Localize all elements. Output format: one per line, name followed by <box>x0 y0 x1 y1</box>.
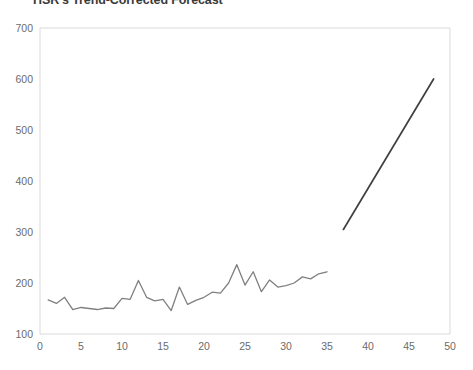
y-tick-label-500: 500 <box>15 124 33 136</box>
x-tick-label-35: 35 <box>321 340 333 352</box>
y-tick-label-200: 200 <box>15 277 33 289</box>
x-tick-label-30: 30 <box>280 340 292 352</box>
chart-container: HSR's Trend-Corrected Forecast 100200300… <box>0 0 473 370</box>
x-tick-label-15: 15 <box>157 340 169 352</box>
y-tick-label-700: 700 <box>15 22 33 34</box>
y-tick-label-100: 100 <box>15 328 33 340</box>
y-tick-label-300: 300 <box>15 226 33 238</box>
x-tick-label-5: 5 <box>78 340 84 352</box>
x-tick-label-25: 25 <box>239 340 251 352</box>
y-tick-label-600: 600 <box>15 73 33 85</box>
x-tick-label-20: 20 <box>198 340 210 352</box>
y-axis-tick-labels: 100200300400500600700 <box>15 22 33 340</box>
x-tick-label-0: 0 <box>37 340 43 352</box>
chart-plot-svg: 100200300400500600700 051015202530354045… <box>0 0 473 370</box>
x-tick-label-50: 50 <box>444 340 456 352</box>
y-tick-label-400: 400 <box>15 175 33 187</box>
plot-background <box>40 28 450 334</box>
x-axis-tick-labels: 05101520253035404550 <box>37 340 456 352</box>
x-tick-label-10: 10 <box>116 340 128 352</box>
x-tick-label-40: 40 <box>362 340 374 352</box>
x-tick-label-45: 45 <box>403 340 415 352</box>
